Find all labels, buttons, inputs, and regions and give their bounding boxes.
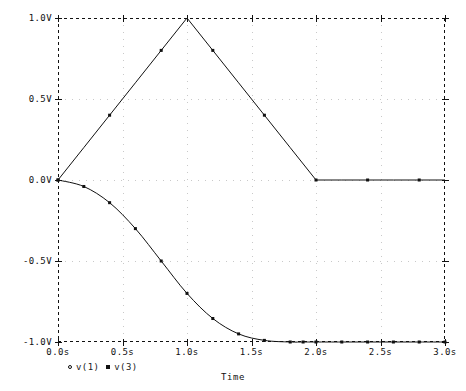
x-tick-mark (187, 15, 188, 22)
gridline-horizontal (58, 261, 445, 262)
square-marker-icon (106, 365, 110, 369)
legend-label-v1: v(1) (76, 362, 99, 372)
y-tick-mark (442, 261, 449, 262)
plot-frame (58, 18, 445, 342)
gridline-horizontal (58, 180, 445, 181)
x-tick-label: 3.0s (423, 347, 466, 357)
plot-legend: v(1) v(3) (68, 362, 138, 372)
x-tick-label: 2.0s (294, 347, 338, 357)
x-tick-mark (123, 339, 124, 346)
y-tick-mark (442, 342, 449, 343)
x-tick-label: 0.5s (101, 347, 145, 357)
y-tick-label: 0.0V (8, 175, 52, 185)
x-tick-mark (316, 15, 317, 22)
y-tick-mark (442, 99, 449, 100)
x-tick-mark (123, 15, 124, 22)
x-tick-mark (187, 339, 188, 346)
circle-marker-icon (68, 365, 72, 369)
x-tick-label: 0.0s (36, 347, 80, 357)
transient-analysis-plot: 0.0s0.5s1.0s1.5s2.0s2.5s3.0s 1.0V0.5V0.0… (0, 0, 466, 391)
legend-label-v3: v(3) (114, 362, 137, 372)
y-tick-mark (442, 18, 449, 19)
y-tick-label: 1.0V (8, 13, 52, 23)
x-tick-mark (252, 339, 253, 346)
x-tick-mark (381, 15, 382, 22)
x-tick-mark (252, 15, 253, 22)
y-tick-mark (55, 180, 62, 181)
x-axis-title: Time (0, 372, 466, 382)
y-tick-mark (55, 261, 62, 262)
x-tick-label: 1.5s (230, 347, 274, 357)
legend-entry-v3[interactable]: v(3) (106, 362, 137, 372)
x-tick-label: 1.0s (165, 347, 209, 357)
y-tick-label: 0.5V (8, 94, 52, 104)
legend-entry-v1[interactable]: v(1) (68, 362, 99, 372)
x-tick-mark (381, 339, 382, 346)
y-tick-mark (442, 180, 449, 181)
y-tick-label: -1.0V (8, 337, 52, 347)
y-tick-mark (55, 342, 62, 343)
gridline-horizontal (58, 99, 445, 100)
y-tick-mark (55, 18, 62, 19)
y-tick-mark (55, 99, 62, 100)
x-tick-label: 2.5s (359, 347, 403, 357)
x-tick-mark (316, 339, 317, 346)
y-tick-label: -0.5V (8, 256, 52, 266)
